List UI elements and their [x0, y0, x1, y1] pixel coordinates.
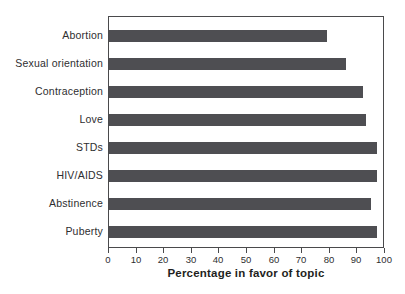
x-tick-mark — [191, 248, 192, 253]
x-tick-mark — [246, 248, 247, 253]
x-tick-label: 80 — [314, 254, 344, 265]
x-tick-label: 40 — [203, 254, 233, 265]
category-label: Contraception — [0, 84, 103, 98]
x-tick-mark — [163, 248, 164, 253]
bar-chart: AbortionSexual orientationContraceptionL… — [0, 0, 405, 294]
bar-love — [109, 114, 366, 126]
category-label: Sexual orientation — [0, 56, 103, 70]
x-tick-label: 20 — [148, 254, 178, 265]
x-tick-label: 50 — [231, 254, 261, 265]
x-tick-mark — [329, 248, 330, 253]
bar-abortion — [109, 30, 327, 42]
category-label: STDs — [0, 140, 103, 154]
bar-sexual-orientation — [109, 58, 346, 70]
x-tick-label: 100 — [369, 254, 399, 265]
bar-puberty — [109, 226, 377, 238]
category-label: Abstinence — [0, 196, 103, 210]
x-tick-mark — [356, 248, 357, 253]
bar-hiv-aids — [109, 170, 377, 182]
category-label: Abortion — [0, 28, 103, 42]
x-tick-mark — [301, 248, 302, 253]
x-tick-label: 90 — [341, 254, 371, 265]
bar-stds — [109, 142, 377, 154]
x-tick-mark — [274, 248, 275, 253]
x-tick-label: 70 — [286, 254, 316, 265]
bar-abstinence — [109, 198, 371, 210]
x-tick-label: 10 — [121, 254, 151, 265]
x-tick-label: 60 — [259, 254, 289, 265]
x-tick-label: 30 — [176, 254, 206, 265]
bar-contraception — [109, 86, 363, 98]
x-tick-label: 0 — [93, 254, 123, 265]
x-tick-mark — [108, 248, 109, 253]
category-label: HIV/AIDS — [0, 168, 103, 182]
plot-area — [108, 16, 384, 248]
category-label: Love — [0, 112, 103, 126]
x-axis-title: Percentage in favor of topic — [108, 267, 384, 279]
x-tick-mark — [136, 248, 137, 253]
x-tick-mark — [384, 248, 385, 253]
x-tick-mark — [218, 248, 219, 253]
category-label: Puberty — [0, 224, 103, 238]
